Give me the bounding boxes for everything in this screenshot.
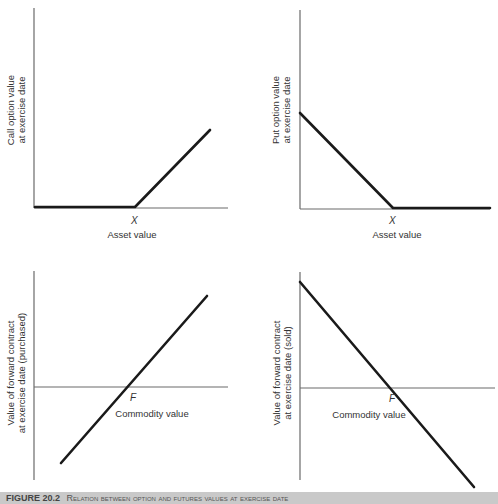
x-axis-label: Asset value [107, 229, 156, 240]
y-axis-label-line2: at exercise date (sold) [282, 326, 293, 419]
x-axis-label: Commodity value [332, 409, 405, 420]
put-option-chart: X Asset value Put option value at exerci… [270, 10, 490, 240]
put-payoff-line [300, 113, 490, 208]
y-axis-label-line1: Value of forward contract [271, 320, 282, 425]
call-option-chart: X Asset value Call option value at exerc… [5, 8, 228, 240]
y-axis-label-line1: Value of forward contract [5, 320, 16, 425]
call-payoff-line [35, 130, 210, 207]
y-axis-label-line2: at exercise date (purchased) [16, 313, 27, 433]
y-axis-label-line2: at exercise date [281, 76, 292, 143]
forward-purchased-chart: F Commodity value Value of forward contr… [5, 271, 228, 480]
forward-price-marker: F [130, 392, 137, 403]
forward-purchased-line [61, 296, 207, 463]
figure-caption: FIGURE 20.2 Relation between option and … [0, 492, 498, 504]
forward-sold-line [300, 282, 474, 487]
forward-sold-chart: F Commodity value Value of forward contr… [271, 272, 495, 487]
y-axis-label-line1: Put option value [270, 76, 281, 144]
y-axis-label-line2: at exercise date [16, 76, 27, 143]
y-axis-label-line1: Call option value [5, 75, 16, 145]
strike-marker: X [388, 215, 396, 226]
x-axis-label: Commodity value [115, 408, 188, 419]
strike-marker: X [130, 215, 138, 226]
forward-price-marker: F [389, 393, 396, 404]
option-futures-figure: X Asset value Call option value at exerc… [0, 0, 498, 504]
figure-title: Relation between option and futures valu… [67, 493, 289, 503]
x-axis-label: Asset value [372, 229, 421, 240]
figure-number: FIGURE 20.2 [6, 493, 60, 503]
